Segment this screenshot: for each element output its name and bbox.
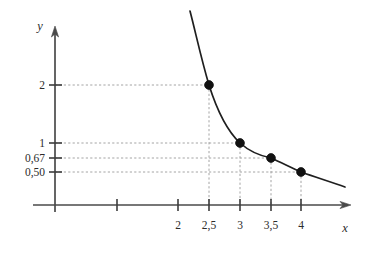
data-point-x4 <box>297 168 306 177</box>
x-tick-label-35: 3,5 <box>264 219 279 232</box>
y-tick-label-2: 2 <box>39 79 45 91</box>
x-tick-label-3: 3 <box>237 219 243 231</box>
graph-figure: 2 1 0,67 0,50 2 2,5 3 3,5 4 y x <box>0 0 367 253</box>
y-axis-label: y <box>35 19 43 33</box>
x-tick-label-25: 2,5 <box>202 219 217 232</box>
y-tick-label-050: 0,50 <box>25 166 45 179</box>
data-point-x3 <box>236 139 245 148</box>
x-tick-label-2: 2 <box>175 219 181 231</box>
y-tick-label-1: 1 <box>39 137 45 149</box>
y-tick-label-067: 0,67 <box>25 152 45 165</box>
x-axis-label: x <box>341 221 348 235</box>
x-tick-label-4: 4 <box>298 219 304 231</box>
data-point-x25 <box>205 81 214 90</box>
coordinate-plot: 2 1 0,67 0,50 2 2,5 3 3,5 4 y x <box>0 0 367 253</box>
data-point-x35 <box>267 154 276 163</box>
